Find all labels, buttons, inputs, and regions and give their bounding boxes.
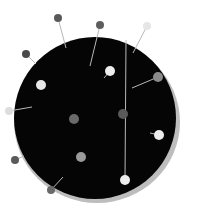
pin-shaft [58,18,66,48]
pin-head [47,186,55,194]
pin-head [96,21,104,29]
pin-head [36,80,46,90]
pin-head [11,156,19,164]
pin-head [120,175,130,185]
pin-shaft [133,26,147,53]
pin-head [76,152,86,162]
cushion-body [14,37,176,199]
pin-head [143,22,151,30]
pin-head [118,109,128,119]
pin-cushion-illustration [0,0,212,221]
pin-cushion-photo [0,0,212,221]
pin-head [153,72,163,82]
pin-head [105,66,115,76]
pin-head [54,14,62,22]
pin-head [69,114,79,124]
pin-head [5,107,13,115]
pin-head [154,130,164,140]
pin-head [22,50,30,58]
